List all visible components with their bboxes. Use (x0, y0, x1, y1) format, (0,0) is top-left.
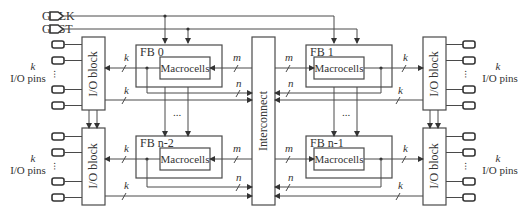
svg-text:...: ... (342, 106, 351, 118)
svg-text:I/O pins: I/O pins (482, 164, 518, 176)
svg-text:...: ... (52, 70, 64, 79)
svg-text:k: k (398, 84, 404, 96)
svg-text:m: m (285, 142, 293, 154)
svg-text:k: k (496, 60, 502, 72)
cpld-architecture-diagram: GCLK GRST Interconnect FB 0 Macrocells F… (0, 0, 529, 219)
fbn2-macrocells-label: Macrocells (161, 153, 210, 165)
io-block-top-left-label: I/O block (86, 51, 100, 97)
svg-text:k: k (124, 179, 130, 191)
svg-text:n: n (288, 171, 294, 183)
pins-top-left: ... k I/O pins (10, 41, 82, 109)
svg-text:k: k (496, 152, 502, 164)
svg-text:I/O pins: I/O pins (10, 164, 46, 176)
fbn1-macrocells-label: Macrocells (315, 153, 364, 165)
svg-text:k: k (124, 84, 130, 96)
svg-text:n: n (288, 77, 294, 89)
svg-text:k: k (403, 142, 409, 154)
svg-text:m: m (285, 51, 293, 63)
io-block-bottom-left-label: I/O block (86, 143, 100, 189)
svg-text:k: k (398, 179, 404, 191)
pins-bottom-left: ... k I/O pins (10, 133, 82, 201)
svg-text:k: k (31, 60, 37, 72)
pins-bottom-right: ... k I/O pins (446, 133, 518, 201)
fb0-macrocells-label: Macrocells (161, 62, 210, 74)
io-block-top-right-label: I/O block (427, 51, 441, 97)
svg-text:...: ... (463, 70, 475, 79)
svg-text:k: k (31, 152, 37, 164)
svg-text:...: ... (463, 162, 475, 171)
svg-text:k: k (124, 142, 130, 154)
svg-text:...: ... (173, 106, 182, 118)
svg-text:I/O pins: I/O pins (10, 72, 46, 84)
svg-text:k: k (403, 51, 409, 63)
svg-text:m: m (233, 142, 241, 154)
svg-text:k: k (124, 51, 130, 63)
io-block-bottom-right-label: I/O block (427, 143, 441, 189)
svg-text:m: m (233, 51, 241, 63)
svg-text:n: n (236, 171, 242, 183)
pins-top-right: ... k I/O pins (446, 41, 518, 109)
grst-line (63, 29, 357, 43)
fb1-macrocells-label: Macrocells (315, 62, 364, 74)
interconnect-label: Interconnect (256, 90, 270, 151)
svg-text:...: ... (52, 162, 64, 171)
svg-text:I/O pins: I/O pins (482, 72, 518, 84)
svg-text:n: n (236, 77, 242, 89)
